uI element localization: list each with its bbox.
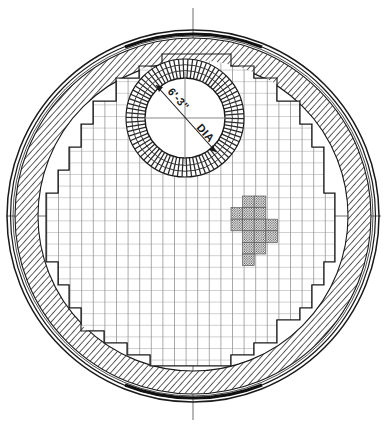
stipple-cell (243, 242, 255, 254)
stipple-cell (254, 242, 266, 254)
stipple-cell (243, 219, 255, 231)
stipple-cell (254, 231, 266, 243)
drawing-canvas: 6'-3" DIA (0, 0, 387, 425)
stipple-cell (231, 208, 243, 220)
furnace-plan-section-drawing: 6'-3" DIA (0, 0, 387, 425)
stipple-cell (243, 254, 255, 266)
stipple-cell (243, 208, 255, 220)
stipple-cell (243, 231, 255, 243)
stipple-cell (231, 219, 243, 231)
stipple-cell (254, 196, 266, 208)
stipple-cell (266, 219, 278, 231)
stipple-cell (254, 219, 266, 231)
stipple-cell (254, 208, 266, 220)
stipple-cell (266, 231, 278, 243)
stipple-cell (243, 196, 255, 208)
